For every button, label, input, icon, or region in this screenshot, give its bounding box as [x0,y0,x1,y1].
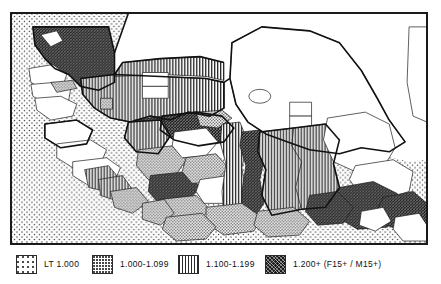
legend-item-1000-1099: 1.000-1.099 [92,252,169,276]
legend-item-1100-1199: 1.100-1.199 [178,252,255,276]
legend-item-lt1000: LT 1.000 [16,252,79,276]
legend-label-1100-1199: 1.100-1.199 [206,259,255,269]
legend-swatch-1200-plus [265,255,286,274]
map-frame [10,12,428,245]
legend-swatch-1100-1199 [178,255,199,274]
legend-item-1200-plus: 1.200+ (F15+ / M15+) [265,252,381,276]
legend-label-lt1000: LT 1.000 [44,259,79,269]
choropleth-figure: LT 1.000 1.000-1.099 1.100-1.199 1.200+ … [0,0,441,284]
legend-label-1000-1099: 1.000-1.099 [120,259,169,269]
legend-swatch-lt1000 [16,255,37,274]
legend: LT 1.000 1.000-1.099 1.100-1.199 1.200+ … [10,252,428,276]
legend-label-1200-plus: 1.200+ (F15+ / M15+) [293,259,381,269]
legend-swatch-1000-1099 [92,255,113,274]
map-canvas [11,13,427,244]
